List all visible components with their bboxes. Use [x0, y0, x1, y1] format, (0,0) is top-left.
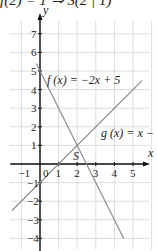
- svg-text:3: 3: [31, 102, 37, 114]
- svg-text:4: 4: [31, 84, 37, 96]
- svg-text:2: 2: [74, 167, 80, 179]
- svg-text:−3: −3: [27, 214, 39, 226]
- coordinate-plot: −10123457654321−1−2−3−4 f (x) = −2x + 5 …: [0, 0, 157, 251]
- svg-text:4: 4: [111, 167, 117, 179]
- intersection-label: S: [73, 149, 79, 163]
- f-label: f (x) = −2x + 5: [47, 73, 120, 87]
- svg-text:1: 1: [31, 139, 37, 151]
- svg-text:−1: −1: [27, 177, 39, 189]
- svg-text:1: 1: [56, 167, 62, 179]
- y-axis-label: y: [42, 3, 49, 17]
- svg-text:−4: −4: [27, 232, 39, 244]
- svg-text:3: 3: [93, 167, 99, 179]
- svg-text:5: 5: [31, 65, 37, 77]
- svg-text:6: 6: [31, 46, 37, 58]
- svg-text:2: 2: [31, 121, 37, 133]
- svg-text:7: 7: [31, 28, 37, 40]
- svg-text:5: 5: [130, 167, 136, 179]
- x-axis-label: x: [147, 146, 154, 160]
- g-label: g (x) = x − 1: [101, 126, 157, 140]
- svg-text:0: 0: [43, 167, 49, 179]
- svg-text:−2: −2: [27, 195, 39, 207]
